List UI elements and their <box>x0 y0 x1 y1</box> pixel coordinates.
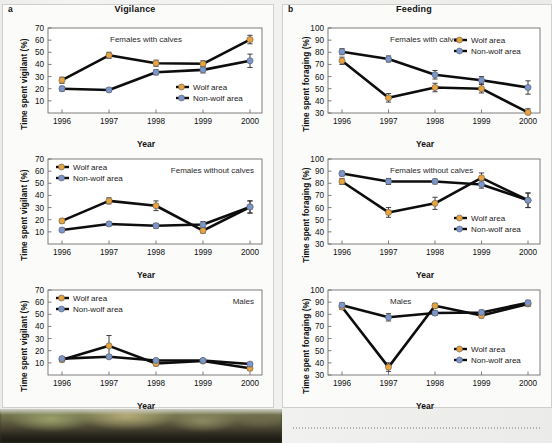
chart-b1: Time spent foraging (%)30405060708090100… <box>282 18 552 149</box>
data-point-marker <box>385 56 391 62</box>
legend-label: Wolf area <box>471 36 506 45</box>
x-tick-label: 1998 <box>147 379 166 388</box>
x-tick-label: 2000 <box>519 379 538 388</box>
x-axis-label: Year <box>282 270 552 280</box>
y-tick-label: 60 <box>315 73 325 82</box>
y-tick-label: 80 <box>315 310 325 319</box>
y-tick-label: 100 <box>310 24 324 33</box>
data-point-marker <box>247 36 253 42</box>
data-point-marker <box>106 198 112 204</box>
y-tick-label: 10 <box>35 97 45 106</box>
x-tick-label: 1998 <box>426 379 445 388</box>
legend-label: Wolf area <box>73 163 108 172</box>
x-tick-label: 1998 <box>426 248 445 257</box>
y-tick-label: 20 <box>35 216 45 225</box>
plot-b2: Time spent foraging (%)30405060708090100… <box>282 149 552 280</box>
column-header-a: a Vigilance <box>2 0 274 18</box>
y-axis-label: Time spent foraging (%) <box>302 36 311 131</box>
chart-b3: Time spent foraging (%)30405060708090100… <box>282 280 552 411</box>
panel-letter-b: b <box>288 4 302 14</box>
y-tick-label: 10 <box>35 359 45 368</box>
figure-column-feeding: b Feeding Time spent foraging (%)3040506… <box>282 0 552 410</box>
x-axis-label: Year <box>2 270 274 280</box>
y-tick-label: 40 <box>35 322 45 331</box>
data-point-marker <box>200 357 206 363</box>
data-point-marker <box>247 361 253 367</box>
data-point-marker <box>106 221 112 227</box>
y-tick-label: 80 <box>315 48 325 57</box>
data-point-marker <box>432 200 438 206</box>
y-tick-label: 50 <box>315 347 325 356</box>
column-title-vigilance: Vigilance <box>22 4 274 14</box>
legend-label: Non-wolf area <box>73 305 123 314</box>
data-point-marker <box>432 310 438 316</box>
x-tick-label: 2000 <box>519 248 538 257</box>
x-tick-label: 1997 <box>379 117 398 126</box>
plot-a3: Time spent vigilant (%)10203040506070199… <box>2 280 274 411</box>
y-tick-label: 30 <box>315 109 325 118</box>
data-point-marker <box>432 303 438 309</box>
data-point-marker <box>153 357 159 363</box>
x-tick-label: 1996 <box>333 117 352 126</box>
plot-b1: Time spent foraging (%)30405060708090100… <box>282 18 552 149</box>
x-tick-label: 1998 <box>147 248 166 257</box>
x-tick-label: 1996 <box>333 379 352 388</box>
x-tick-label: 1996 <box>53 248 72 257</box>
y-tick-label: 100 <box>310 155 324 164</box>
chart-b2: Time spent foraging (%)30405060708090100… <box>282 149 552 280</box>
plot-b3: Time spent foraging (%)30405060708090100… <box>282 280 552 411</box>
y-tick-label: 30 <box>35 73 45 82</box>
page-photo-strip <box>0 409 282 443</box>
data-point-marker <box>200 67 206 73</box>
data-point-marker <box>478 77 484 83</box>
data-point-marker <box>106 343 112 349</box>
data-point-marker <box>339 302 345 308</box>
x-axis-label: Year <box>2 139 274 149</box>
chart-a1: Time spent vigilant (%)10203040506070199… <box>2 18 274 149</box>
data-point-marker <box>200 221 206 227</box>
x-tick-label: 1999 <box>194 117 213 126</box>
panel-annotation: Males <box>233 297 254 306</box>
data-point-marker <box>153 69 159 75</box>
data-point-marker <box>59 356 65 362</box>
data-point-marker <box>200 228 206 234</box>
y-axis-label: Time spent foraging (%) <box>302 298 311 393</box>
x-tick-label: 1999 <box>472 248 491 257</box>
y-tick-label: 90 <box>315 36 325 45</box>
legend-label: Non-wolf area <box>471 356 521 365</box>
y-tick-label: 50 <box>35 310 45 319</box>
x-axis-label: Year <box>2 401 274 411</box>
data-point-marker <box>106 87 112 93</box>
x-tick-label: 1998 <box>426 117 445 126</box>
data-point-marker <box>385 314 391 320</box>
x-tick-label: 1997 <box>379 379 398 388</box>
data-point-marker <box>385 209 391 215</box>
x-tick-label: 1999 <box>472 117 491 126</box>
y-tick-label: 50 <box>315 216 325 225</box>
legend-label: Non-wolf area <box>193 94 243 103</box>
y-tick-label: 90 <box>315 167 325 176</box>
legend-label: Non-wolf area <box>471 47 521 56</box>
y-tick-label: 70 <box>315 322 325 331</box>
y-tick-label: 30 <box>35 335 45 344</box>
y-tick-label: 60 <box>315 335 325 344</box>
data-point-marker <box>339 178 345 184</box>
data-point-marker <box>106 52 112 58</box>
y-axis-label: Time spent foraging (%) <box>302 167 311 262</box>
y-tick-label: 90 <box>315 298 325 307</box>
data-point-marker <box>478 181 484 187</box>
legend-label: Wolf area <box>193 83 228 92</box>
y-tick-label: 40 <box>35 191 45 200</box>
y-axis-label: Time spent vigilant (%) <box>20 38 29 129</box>
data-point-marker <box>247 204 253 210</box>
x-tick-label: 1997 <box>100 248 119 257</box>
plot-a2: Time spent vigilant (%)10203040506070199… <box>2 149 274 280</box>
y-tick-label: 50 <box>35 179 45 188</box>
y-tick-label: 40 <box>315 228 325 237</box>
y-tick-label: 60 <box>315 204 325 213</box>
data-point-marker <box>525 109 531 115</box>
data-point-marker <box>478 175 484 181</box>
x-tick-label: 1996 <box>333 248 352 257</box>
y-tick-label: 60 <box>35 167 45 176</box>
plot-stack-a: Time spent vigilant (%)10203040506070199… <box>2 18 274 411</box>
